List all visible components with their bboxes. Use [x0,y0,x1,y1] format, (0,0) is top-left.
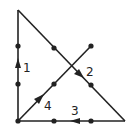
path-label-3: 3 [71,104,79,118]
node-dot [88,43,93,48]
arrow-up-icon [15,58,21,68]
node-dot [88,118,93,123]
node-dot [15,43,20,48]
node-dot [15,81,20,86]
path-label-2: 2 [86,65,94,79]
path-label-4: 4 [44,99,52,113]
node-dot [51,45,56,50]
path-label-1: 1 [23,61,31,75]
node-dot [88,82,93,87]
node-dot [15,118,20,123]
node-dot [51,81,56,86]
node-dot [51,118,56,123]
path-diagram: 1 2 3 4 [0,0,139,131]
arrow-left-icon [70,118,80,124]
